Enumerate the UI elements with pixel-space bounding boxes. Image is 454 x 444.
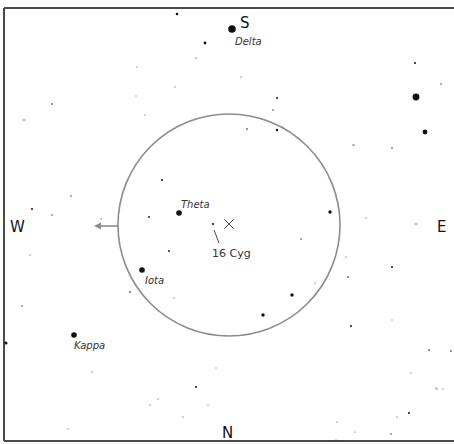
star-dot bbox=[450, 350, 452, 352]
star-dot bbox=[355, 432, 356, 433]
star-dot bbox=[246, 128, 248, 130]
star-dot bbox=[272, 109, 273, 110]
cardinal-s: S bbox=[240, 14, 250, 32]
star-dot bbox=[300, 238, 301, 239]
star-dot bbox=[51, 103, 53, 105]
star-dot bbox=[129, 291, 131, 293]
star-dot bbox=[337, 422, 338, 423]
star-dot bbox=[139, 267, 145, 273]
star-dot bbox=[423, 130, 428, 135]
star-dot bbox=[136, 96, 137, 97]
star-dot bbox=[397, 417, 398, 418]
star-dot bbox=[336, 440, 337, 441]
star-label: Kappa bbox=[74, 340, 105, 351]
star-dot bbox=[241, 77, 242, 78]
star-dot bbox=[175, 87, 176, 88]
star-dot bbox=[347, 276, 349, 278]
star-dot bbox=[443, 389, 444, 390]
star-label: Delta bbox=[235, 36, 262, 47]
star-dot bbox=[408, 412, 410, 414]
star-dot bbox=[51, 214, 52, 215]
star-dot bbox=[350, 325, 352, 327]
star-label: Theta bbox=[181, 199, 210, 210]
star-dot bbox=[204, 42, 207, 45]
star-dot bbox=[261, 313, 264, 316]
star-dot bbox=[392, 320, 393, 321]
star-dot bbox=[440, 83, 441, 84]
star-dot bbox=[366, 218, 367, 219]
star-dot bbox=[91, 371, 92, 372]
star-dot bbox=[228, 25, 236, 33]
star-dot bbox=[71, 332, 77, 338]
star-dot bbox=[174, 298, 175, 299]
target-star-dot bbox=[212, 223, 214, 225]
star-finder-chart: DeltaThetaIotaKappa 16 Cyg SWEN bbox=[0, 0, 454, 444]
star-dot bbox=[346, 257, 347, 258]
star-dot bbox=[437, 389, 438, 390]
star-dot bbox=[68, 429, 69, 430]
star-dot bbox=[328, 210, 331, 213]
star-dot bbox=[161, 179, 163, 181]
star-dot bbox=[290, 293, 293, 296]
cardinal-w: W bbox=[10, 218, 25, 236]
star-label: Iota bbox=[145, 275, 164, 286]
star-dot bbox=[183, 417, 184, 418]
star-dot bbox=[70, 195, 71, 196]
star-dot bbox=[23, 119, 24, 120]
star-dot bbox=[415, 223, 416, 224]
star-dot bbox=[391, 147, 392, 148]
cardinal-n: N bbox=[222, 424, 233, 442]
star-dot bbox=[100, 218, 101, 219]
star-dot bbox=[390, 433, 391, 434]
star-dot bbox=[195, 57, 196, 58]
target-label: 16 Cyg bbox=[212, 247, 251, 260]
star-dot bbox=[31, 208, 33, 210]
star-dot bbox=[413, 94, 420, 101]
star-dot bbox=[176, 13, 179, 16]
star-dot bbox=[145, 115, 146, 116]
star-dot bbox=[435, 387, 436, 388]
star-dot bbox=[195, 386, 197, 388]
star-dot bbox=[353, 144, 354, 145]
star-dot bbox=[168, 250, 170, 252]
star-dot bbox=[5, 342, 8, 345]
star-dot bbox=[148, 216, 150, 218]
star-dot bbox=[21, 305, 22, 306]
star-dot bbox=[276, 129, 278, 131]
star-dot bbox=[216, 368, 217, 369]
star-dot bbox=[176, 210, 182, 216]
star-dot bbox=[150, 405, 151, 406]
star-dot bbox=[391, 266, 393, 268]
star-dot bbox=[276, 97, 278, 99]
star-dot bbox=[158, 399, 159, 400]
star-dot bbox=[208, 405, 209, 406]
star-dot bbox=[30, 255, 31, 256]
star-dot bbox=[137, 67, 138, 68]
star-dot bbox=[411, 373, 412, 374]
star-dot bbox=[428, 349, 430, 351]
star-dot bbox=[315, 283, 316, 284]
star-dot bbox=[414, 62, 416, 64]
cardinal-e: E bbox=[437, 218, 446, 236]
